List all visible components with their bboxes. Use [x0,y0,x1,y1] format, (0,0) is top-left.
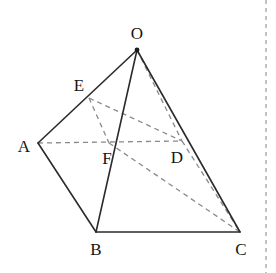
vertex-label-c: C [235,241,246,258]
geometry-figure: OEAFDBC [0,0,276,273]
dashed-edge-group [38,50,240,232]
vertex-label-f: F [102,150,111,167]
edge-A-D [38,141,182,143]
vertex-label-d: D [171,149,183,166]
edge-D-C [182,141,240,232]
vertex-label-a: A [18,138,30,155]
edge-O-C [137,50,240,232]
edge-O-A [38,50,137,143]
edge-O-B [96,50,137,232]
edge-E-F [89,98,109,143]
vertex-label-b: B [90,241,101,258]
vertex-label-o: O [131,25,143,42]
edge-O-D [137,50,182,141]
vertex-dot-o [135,48,140,53]
edge-A-B [38,143,96,232]
vertex-dot-group [135,48,140,53]
vertex-label-e: E [74,77,84,94]
